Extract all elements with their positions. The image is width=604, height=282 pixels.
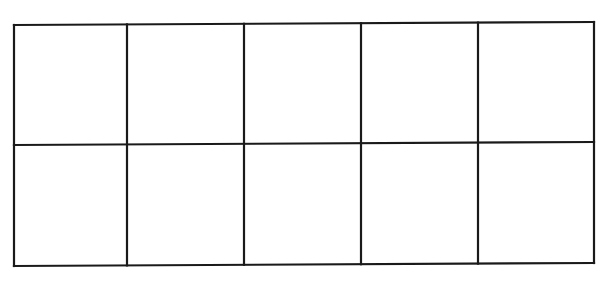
grid-cell-r2-c4 [361, 143, 478, 265]
grid-cell-r2-c1 [14, 144, 127, 266]
grid-cell-r2-c2 [127, 144, 244, 266]
grid-cell-r1-c1 [14, 24, 127, 145]
grid-cell-r1-c5 [478, 22, 594, 143]
grid-cell-r1-c2 [127, 24, 244, 145]
grid-cell-r2-c3 [244, 143, 361, 265]
grid-cell-r1-c3 [244, 23, 361, 144]
ten-frame-grid [0, 0, 604, 282]
grid-cell-r2-c5 [478, 142, 594, 264]
grid-cell-r1-c4 [361, 23, 478, 144]
